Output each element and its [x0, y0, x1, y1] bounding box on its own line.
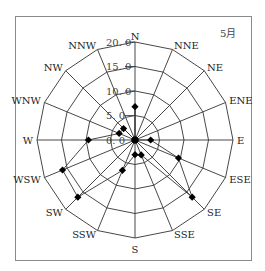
direction-label-e: E [237, 135, 244, 146]
direction-label-wsw: WSW [13, 174, 41, 185]
series-line [63, 107, 193, 197]
chart-title: 5月 [220, 28, 236, 39]
direction-label-nne: NNE [174, 40, 199, 51]
center-marker [132, 137, 139, 144]
direction-label-nnw: NNW [68, 40, 97, 51]
wind-rose-chart: 0. 05. 010. 015. 020. 0 NNNENEENEEESESES… [0, 0, 265, 271]
direction-label-s: S [132, 244, 139, 255]
direction-label-n: N [131, 31, 140, 42]
direction-label-w: W [23, 135, 34, 146]
ring-label: 5. 0 [106, 110, 125, 121]
data-point-n [131, 103, 138, 110]
direction-label-wnw: WNW [11, 95, 41, 106]
direction-label-sw: SW [46, 207, 64, 218]
spoke-ne [135, 71, 204, 140]
direction-label-ene: ENE [229, 95, 252, 106]
direction-label-ne: NE [207, 62, 223, 73]
data-point-e [147, 136, 154, 143]
direction-label-sse: SSE [174, 229, 195, 240]
ring-label: 0. 0 [106, 135, 125, 146]
direction-label-nw: NW [44, 62, 64, 73]
direction-label-se: SE [207, 207, 221, 218]
direction-label-ssw: SSW [72, 229, 97, 240]
direction-label-ese: ESE [229, 174, 250, 185]
